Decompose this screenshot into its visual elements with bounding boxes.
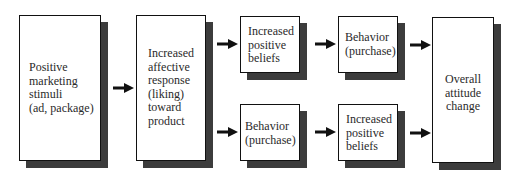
node-label: Increased positive beliefs	[248, 25, 294, 66]
node-label: Increased affective response (liking) to…	[148, 47, 194, 128]
node-label: Behavior (purchase)	[245, 120, 296, 147]
arrow-right-icon	[217, 127, 238, 137]
arrow-right-icon	[410, 128, 431, 138]
node-label: Overall attitude change	[433, 73, 493, 114]
node-increased-positive-beliefs-top: Increased positive beliefs	[240, 16, 300, 73]
arrow-right-icon	[315, 39, 336, 49]
node-label: Increased positive beliefs	[346, 113, 392, 154]
node-label: Positive marketing stimuli (ad, package)	[29, 61, 94, 115]
node-positive-marketing-stimuli: Positive marketing stimuli (ad, package)	[19, 15, 101, 161]
node-increased-affective-response: Increased affective response (liking) to…	[136, 15, 206, 161]
node-label: Behavior (purchase)	[345, 31, 396, 58]
arrow-right-icon	[217, 39, 238, 49]
arrow-right-icon	[113, 83, 134, 93]
node-overall-attitude-change: Overall attitude change	[432, 17, 494, 163]
node-behavior-purchase-top: Behavior (purchase)	[338, 16, 398, 73]
node-behavior-purchase-bottom: Behavior (purchase)	[240, 104, 300, 161]
node-increased-positive-beliefs-bottom: Increased positive beliefs	[338, 104, 398, 161]
arrow-right-icon	[410, 40, 431, 50]
arrow-right-icon	[315, 127, 336, 137]
